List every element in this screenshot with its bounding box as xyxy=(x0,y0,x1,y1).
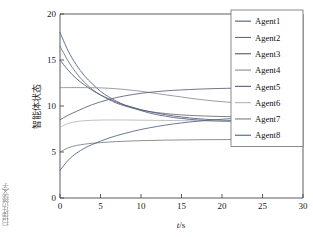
y-tick-label: 20 xyxy=(47,9,57,19)
chart-curve xyxy=(60,60,236,121)
x-axis-label: t/s xyxy=(177,220,186,230)
legend-label-agent4: Agent4 xyxy=(255,65,281,75)
y-tick-label: 0 xyxy=(52,193,57,203)
legend-label-agent8: Agent8 xyxy=(255,130,280,140)
y-axis-label-text: 智能体状态 xyxy=(31,84,42,129)
x-tick-label: 10 xyxy=(137,201,147,211)
chart-curve xyxy=(60,46,236,117)
legend-label-agent7: Agent7 xyxy=(255,114,281,124)
y-axis-label: 智能体状态 xyxy=(31,84,42,129)
legend-box xyxy=(231,10,303,146)
y-tick-label: 10 xyxy=(47,101,57,111)
x-tick-label: 15 xyxy=(177,201,187,211)
legend-label-agent6: Agent6 xyxy=(255,98,281,108)
chart-curve xyxy=(60,118,236,170)
chart-svg: 05101520253005101520 t/s 智能体状态 Agent1Age… xyxy=(0,0,313,237)
chart-curve xyxy=(60,88,236,120)
x-axis-label-rest: /s xyxy=(179,220,186,230)
x-tick-label: 30 xyxy=(299,201,309,211)
y-tick-label: 5 xyxy=(52,147,57,157)
x-tick-label: 5 xyxy=(98,201,103,211)
chart-figure: 05101520253005101520 t/s 智能体状态 Agent1Age… xyxy=(0,0,313,237)
chart-legend: Agent1Agent2Agent3Agent4Agent5Agent6Agen… xyxy=(231,10,303,146)
x-tick-label: 20 xyxy=(218,201,228,211)
chart-curve xyxy=(60,120,236,127)
scan-margin-artifact: 扫描件边缘文字 xyxy=(2,168,14,226)
legend-label-agent3: Agent3 xyxy=(255,49,280,59)
y-tick-label: 15 xyxy=(47,55,57,65)
legend-label-agent2: Agent2 xyxy=(255,33,280,43)
legend-label-agent5: Agent5 xyxy=(255,82,280,92)
chart-curve xyxy=(60,139,236,152)
chart-curve xyxy=(60,88,236,103)
legend-label-agent1: Agent1 xyxy=(255,16,280,26)
x-tick-label: 0 xyxy=(58,201,63,211)
svg-text:t/s: t/s xyxy=(177,220,186,230)
x-tick-label: 25 xyxy=(258,201,268,211)
chart-curve xyxy=(60,32,236,121)
